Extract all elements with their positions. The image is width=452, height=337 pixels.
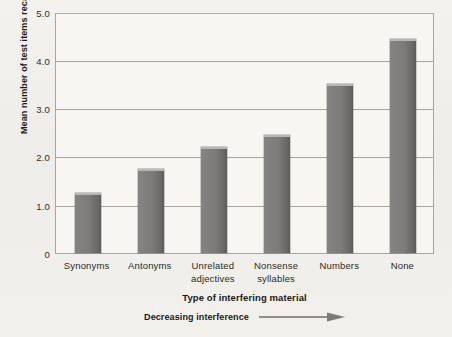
x-tick-synonyms-line-0: Synonyms	[55, 260, 118, 273]
bar-slot-nonsense-syllables	[246, 14, 309, 253]
y-tick-1: 1.0	[36, 201, 50, 212]
bar-slot-antonyms	[119, 14, 182, 253]
y-tick-0: 0	[45, 249, 50, 260]
x-axis-title: Type of interfering material	[55, 292, 434, 303]
x-tick-none: None	[371, 260, 434, 273]
x-tick-numbers-line-0: Numbers	[308, 260, 371, 273]
x-tick-antonyms-line-0: Antonyms	[118, 260, 181, 273]
bar-slot-unrelated-adjectives	[182, 14, 245, 253]
bar-antonyms	[138, 169, 164, 253]
y-tick-5: 5.0	[36, 8, 50, 19]
x-tick-unrelated-adjectives-line-0: Unrelated	[181, 260, 244, 273]
interference-annotation-label: Decreasing interference	[144, 312, 249, 322]
interference-annotation: Decreasing interference	[55, 312, 434, 322]
x-tick-synonyms: Synonyms	[55, 260, 118, 273]
bar-chart-figure: 5.0 4.0 3.0 2.0 1.0 0 Mean number of tes…	[0, 0, 452, 337]
bar-synonyms	[75, 193, 101, 253]
plot-area	[55, 13, 434, 254]
bar-slot-numbers	[309, 14, 372, 253]
bar-none	[390, 39, 416, 253]
x-tick-nonsense-syllables-line-1: syllables	[245, 273, 308, 286]
x-tick-unrelated-adjectives: Unrelated adjectives	[181, 260, 244, 285]
y-tick-2: 2.0	[36, 152, 50, 163]
bar-slot-none	[372, 14, 435, 253]
x-tick-nonsense-syllables: Nonsense syllables	[245, 260, 308, 285]
y-tick-3: 3.0	[36, 104, 50, 115]
bar-nonsense-syllables	[264, 135, 290, 253]
bar-numbers	[327, 84, 353, 253]
bar-unrelated-adjectives	[201, 147, 227, 253]
x-tick-antonyms: Antonyms	[118, 260, 181, 273]
x-tick-numbers: Numbers	[308, 260, 371, 273]
y-tick-4: 4.0	[36, 56, 50, 67]
right-arrow-icon	[259, 312, 345, 322]
x-tick-unrelated-adjectives-line-1: adjectives	[181, 273, 244, 286]
x-tick-nonsense-syllables-line-0: Nonsense	[245, 260, 308, 273]
x-tick-none-line-0: None	[371, 260, 434, 273]
y-axis-title: Mean number of test items recalled	[19, 0, 29, 157]
bar-slot-synonyms	[56, 14, 119, 253]
